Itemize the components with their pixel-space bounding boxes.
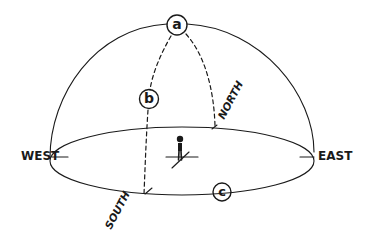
marker-c: c <box>213 183 231 201</box>
label-north: NORTH <box>215 79 245 121</box>
marker-a: a <box>167 15 187 35</box>
marker-b: b <box>140 90 159 109</box>
svg-text:a: a <box>172 16 181 32</box>
label-east: EAST <box>318 149 353 163</box>
observer-figure <box>166 136 198 168</box>
svg-text:b: b <box>144 90 154 106</box>
meridian-arc-north <box>186 34 215 126</box>
label-west: WEST <box>21 149 60 163</box>
south-tick <box>145 188 152 194</box>
celestial-sphere-diagram: a b c WEST EAST NORTH SOUTH <box>0 0 375 243</box>
label-south: SOUTH <box>102 189 132 231</box>
svg-text:c: c <box>218 184 226 199</box>
meridian-arc-south <box>144 36 171 194</box>
